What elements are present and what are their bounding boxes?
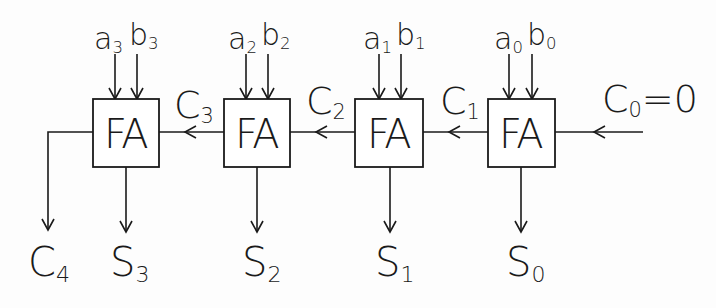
carry-c2: C2 xyxy=(306,82,346,123)
carry-in-c0: C0=0 xyxy=(602,80,698,121)
sum-arrows xyxy=(126,167,521,232)
input-b3: b3 xyxy=(129,20,159,53)
carry-out-c4: C4 xyxy=(28,242,70,286)
sum-s0: S0 xyxy=(506,242,545,286)
fa2-label: FA xyxy=(235,114,278,154)
input-a1: a1 xyxy=(363,24,392,57)
input-b1: b1 xyxy=(396,20,426,53)
input-b2: b2 xyxy=(261,20,291,53)
fa1-label: FA xyxy=(367,114,410,154)
sum-s1: S1 xyxy=(375,242,414,286)
fa3-label: FA xyxy=(104,114,147,154)
input-a2: a2 xyxy=(228,24,257,57)
fa0-label: FA xyxy=(499,114,542,154)
carry-c3: C3 xyxy=(174,86,214,127)
sum-s2: S2 xyxy=(242,242,281,286)
sum-s3: S3 xyxy=(110,242,149,286)
carry-c1: C1 xyxy=(440,82,480,123)
input-b0: b0 xyxy=(527,20,557,53)
input-a0: a0 xyxy=(494,24,523,57)
input-a3: a3 xyxy=(94,24,123,57)
ripple-carry-adder-diagram: FA FA FA FA a3 b3 a2 b2 a1 b1 a0 b0 C3 C… xyxy=(0,0,716,308)
